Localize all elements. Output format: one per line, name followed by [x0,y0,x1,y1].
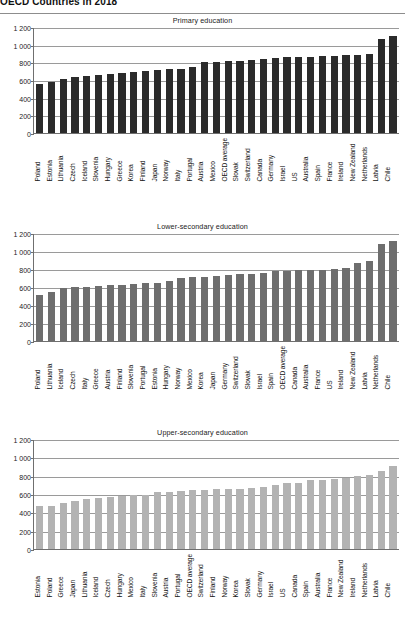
bar [248,60,255,133]
x-axis-tick-label: Czech [70,346,82,390]
bar [83,499,90,549]
y-axis-tick-label: 1 200 [13,25,31,32]
bar [71,501,78,549]
bar [283,271,290,341]
bar [272,58,279,133]
y-axis-tick-label: 1 000 [13,249,31,256]
y-axis-tick-label: 1 200 [13,437,31,444]
bar [342,55,349,133]
x-axis-labels: PolandLithuaniaIcelandCzechItalyGreeceAu… [33,346,399,390]
y-axis-tick-label: 800 [19,473,31,480]
bar [354,476,361,549]
bar [95,498,102,549]
bar [366,54,373,133]
bar [166,69,173,133]
bar [36,506,43,549]
x-axis-tick-label: Switzerland [245,138,257,182]
bar [307,480,314,549]
x-axis-tick-label: Finland [210,554,222,598]
bar [378,471,385,549]
bar [130,284,137,341]
bar-series [34,234,399,341]
y-axis-tick-label: 0 [27,131,31,138]
y-axis-tick-label: 400 [19,303,31,310]
y-tick-mark [31,550,34,551]
x-axis-tick-label: Norway [175,346,187,390]
bar [154,492,161,549]
bar [236,489,243,550]
bar [166,281,173,341]
bar [189,277,196,341]
y-axis-tick-label: 800 [19,267,31,274]
bar [36,84,43,133]
x-axis-tick-label: Japan [70,554,82,598]
y-axis-tick-label: 1 000 [13,455,31,462]
bar [48,506,55,549]
x-axis-tick-label: Chile [385,138,397,182]
bar [342,268,349,341]
bar [213,62,220,133]
bar [331,479,338,549]
x-axis-tick-label: Austria [105,346,117,390]
bar [272,271,279,341]
bar [60,79,67,133]
bar [60,503,67,549]
y-tick-mark [31,134,34,135]
bar [248,488,255,549]
bar [177,491,184,549]
bar [260,59,267,133]
x-axis-tick-label: Italy [140,554,152,598]
bar [83,76,90,133]
plot-area: 02004006008001 0001 200 [33,440,399,550]
bar [177,69,184,133]
bar [118,496,125,549]
y-axis-tick-label: 600 [19,492,31,499]
x-axis-tick-label: Italy [175,138,187,182]
bar [260,273,267,341]
x-axis-tick-label: Chile [385,554,397,598]
bar [48,292,55,341]
bar [95,75,102,133]
bar [71,287,78,341]
y-axis-tick-label: 0 [27,339,31,346]
bar [295,57,302,133]
bar [154,70,161,133]
y-axis-tick-label: 800 [19,60,31,67]
bar [225,61,232,133]
bar [154,283,161,341]
bar [107,497,114,549]
bar [389,241,396,341]
bar [225,489,232,549]
bar [331,56,338,133]
bar [142,283,149,341]
bar [177,278,184,341]
y-axis-tick-label: 200 [19,528,31,535]
page-title: OECD Countries in 2018 [0,0,117,7]
bar [295,483,302,549]
bar [201,277,208,341]
y-axis-tick-label: 1 000 [13,42,31,49]
bar [36,295,43,341]
bar [118,73,125,133]
bar [189,490,196,549]
x-axis-tick-label: Poland [35,138,47,182]
bar [389,466,396,549]
bar [166,492,173,549]
bar-series [34,440,399,549]
x-axis-tick-label: Portugal [140,346,152,390]
bar [118,285,125,341]
bar [213,276,220,341]
bar [142,495,149,549]
bar [354,55,361,133]
bar [319,270,326,341]
bar [307,270,314,341]
x-axis-tick-label: Chile [385,346,397,390]
bar [48,82,55,133]
y-axis-tick-label: 1 200 [13,231,31,238]
bar [60,288,67,341]
x-axis-labels: PolandEstoniaLithuaniaCzechIcelandSloven… [33,138,399,182]
bar [142,71,149,133]
bar [213,489,220,549]
bar [366,475,373,549]
bar [236,61,243,133]
